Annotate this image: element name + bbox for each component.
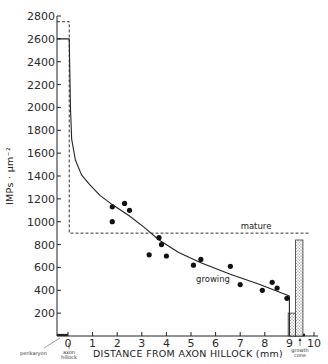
y-tick-label: 1200: [27, 193, 55, 206]
perikaryon-label: perikaryon: [20, 350, 47, 357]
y-tick-label: 1600: [27, 147, 55, 160]
data-point: [110, 219, 115, 224]
mature-path: [57, 22, 309, 233]
y-axis-ticks: 2004006008001000120014001600180020002200…: [27, 10, 61, 320]
x-tick-label: 10: [307, 337, 321, 350]
data-point: [238, 282, 243, 287]
mature-line: [57, 22, 309, 233]
data-point: [127, 208, 132, 213]
y-tick-label: 800: [34, 239, 55, 252]
y-tick-label: 1400: [27, 170, 55, 183]
y-tick-label: 2400: [27, 56, 55, 69]
growing-label: growing: [196, 274, 230, 284]
data-point: [159, 242, 164, 247]
y-tick-label: 200: [34, 307, 55, 320]
y-tick-label: 2800: [27, 10, 55, 23]
perikaryon-leader: [44, 338, 60, 348]
y-tick-label: 2000: [27, 101, 55, 114]
y-tick-label: 600: [34, 261, 55, 274]
growth-cone-bar: [296, 240, 303, 336]
y-axis-title: IMPs · µm⁻²: [4, 147, 15, 205]
data-point: [147, 252, 152, 257]
growth-cone-arrow-head: [299, 338, 302, 341]
data-point: [122, 201, 127, 206]
data-point: [191, 263, 196, 268]
chart-canvas: 2004006008001000120014001600180020002200…: [0, 0, 328, 364]
y-axis: 2004006008001000120014001600180020002200…: [27, 10, 61, 336]
growth-cone-bars: [288, 240, 303, 336]
data-point: [228, 264, 233, 269]
x-axis-title: DISTANCE FROM AXON HILLOCK (mm): [93, 348, 283, 359]
data-point: [110, 204, 115, 209]
data-point: [156, 235, 161, 240]
y-tick-label: 2600: [27, 33, 55, 46]
growing-path: [57, 39, 289, 336]
y-tick-label: 400: [34, 284, 55, 297]
data-point: [284, 296, 289, 301]
data-point: [198, 257, 203, 262]
growth-cone-label-2: cone: [294, 352, 306, 358]
axon-hillock-label-2: hillock: [61, 354, 77, 360]
data-point: [270, 280, 275, 285]
mature-label: mature: [241, 221, 272, 231]
y-tick-label: 1800: [27, 124, 55, 137]
chart: 2004006008001000120014001600180020002200…: [0, 0, 328, 364]
growing-curve: [57, 39, 289, 336]
data-point: [275, 285, 280, 290]
data-point: [260, 288, 265, 293]
y-tick-label: 1000: [27, 216, 55, 229]
y-tick-label: 2200: [27, 79, 55, 92]
data-point: [164, 253, 169, 258]
